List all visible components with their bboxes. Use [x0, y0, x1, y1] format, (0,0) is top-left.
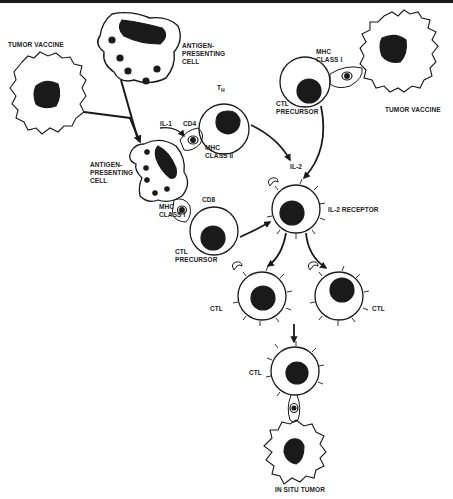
ctl-left-cell: [232, 262, 292, 326]
tumor-vaccine-right-cell: [360, 10, 438, 92]
label-ctl-precursor-left: CTL PRECURSOR: [175, 248, 217, 264]
label-ctl-precursor-right: CTL PRECURSOR: [276, 100, 318, 116]
ctl-bottom-cell: [266, 341, 324, 396]
label-apc-top: ANTIGEN- PRESENTING CELL: [182, 42, 225, 66]
label-tumor-vaccine-right: TUMOR VACCINE: [385, 106, 441, 114]
label-il2-receptor: IL-2 RECEPTOR: [328, 206, 379, 214]
ctl-right-cell: [308, 262, 369, 326]
mhc-synapse-in-situ: [288, 395, 300, 422]
label-mhc-class-ii: MHC CLASS II: [205, 144, 233, 160]
label-mhc-class-i-right: MHC CLASS I: [316, 48, 342, 64]
label-th-sub: H: [221, 87, 225, 93]
label-th-cell: TH: [217, 84, 225, 94]
tumor-vaccine-left-cell: [10, 52, 86, 134]
label-il2: IL-2: [290, 163, 302, 171]
label-mhc-class-i-left: MHC CLASS I: [159, 203, 185, 219]
label-ctl-right: CTL: [372, 305, 385, 313]
mhc-class-i-synapse-right: [330, 67, 362, 88]
label-tumor-vaccine-left: TUMOR VACCINE: [8, 41, 64, 49]
diagram-figure: TUMOR VACCINE ANTIGEN- PRESENTING CELL T…: [0, 0, 453, 499]
il2-receptor-cell: [267, 178, 325, 239]
label-cd8: CD8: [202, 196, 215, 204]
label-il1: IL-1: [160, 120, 172, 128]
label-ctl-bottom: CTL: [249, 369, 262, 377]
in-situ-tumor-cell: [264, 420, 326, 484]
label-apc-mid: ANTIGEN- PRESENTING CELL: [90, 161, 133, 185]
diagram-artwork: [0, 0, 453, 499]
label-cd4: CD4: [183, 120, 196, 128]
apc-top-cell: [98, 13, 181, 84]
label-in-situ-tumor: IN SITU TUMOR: [275, 486, 325, 494]
label-ctl-left: CTL: [210, 305, 223, 313]
apc-mid-cell: [130, 140, 188, 201]
